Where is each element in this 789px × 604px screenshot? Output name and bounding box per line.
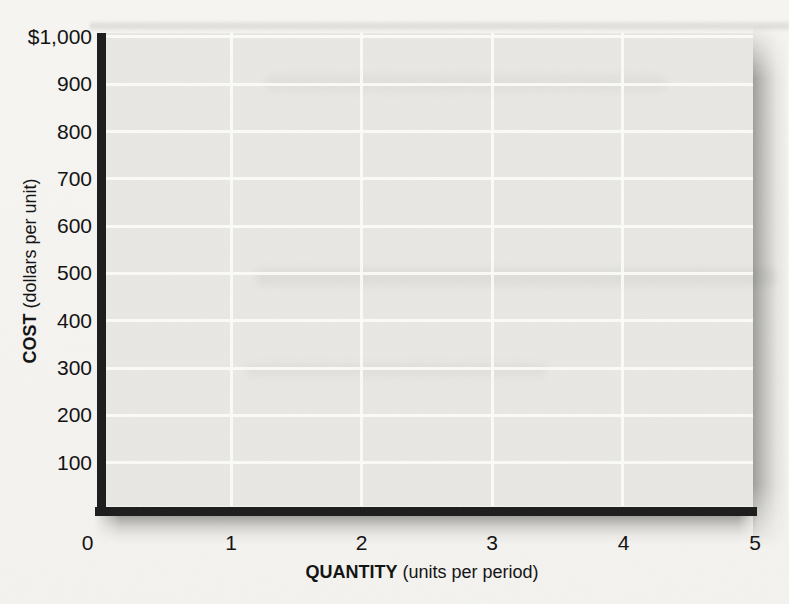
y-tick-label: 200 <box>6 403 92 427</box>
y-tick-label: 800 <box>6 120 92 144</box>
gridline-vertical <box>491 33 494 506</box>
page-scan-shadow-bottom <box>94 516 758 544</box>
print-bleedthrough-smudge <box>256 268 776 286</box>
print-bleedthrough-smudge <box>246 363 546 377</box>
y-axis-title-bold: COST <box>20 314 40 364</box>
x-tick-label: 1 <box>199 531 263 555</box>
x-axis-title: QUANTITY (units per period) <box>172 560 672 584</box>
gridline-horizontal <box>106 225 753 228</box>
x-axis-line <box>95 507 757 516</box>
gridline-horizontal <box>106 319 753 322</box>
y-tick-label: 900 <box>6 72 92 96</box>
y-tick-label: 100 <box>6 451 92 475</box>
x-axis-title-rest: (units per period) <box>397 562 538 582</box>
gridline-horizontal <box>106 414 753 417</box>
y-tick-label: $1,000 <box>6 25 92 49</box>
x-tick-label: 0 <box>56 531 120 555</box>
scan-artifact-streak <box>90 20 789 32</box>
gridline-horizontal <box>106 272 753 275</box>
page-scan-shadow-right <box>753 26 787 548</box>
gridline-horizontal <box>106 367 753 370</box>
gridline-horizontal <box>106 177 753 180</box>
y-axis-line <box>97 33 106 516</box>
scanned-textbook-page: 100200300400500600700800900$1,000 012345… <box>0 0 789 604</box>
gridline-horizontal <box>106 83 753 86</box>
x-tick-label: 3 <box>460 531 524 555</box>
gridline-horizontal <box>106 35 753 38</box>
x-tick-label: 5 <box>723 531 787 555</box>
y-axis-title-rest: (dollars per unit) <box>20 178 40 313</box>
gridline-horizontal <box>106 461 753 464</box>
y-axis-title: COST (dollars per unit) <box>18 150 42 392</box>
gridline-vertical <box>360 33 363 506</box>
chart-plot-area <box>106 33 753 506</box>
gridline-vertical <box>230 33 233 506</box>
x-tick-label: 4 <box>592 531 656 555</box>
x-tick-label: 2 <box>330 531 394 555</box>
gridline-horizontal <box>106 130 753 133</box>
x-axis-title-bold: QUANTITY <box>305 562 397 582</box>
gridline-vertical <box>621 33 624 506</box>
